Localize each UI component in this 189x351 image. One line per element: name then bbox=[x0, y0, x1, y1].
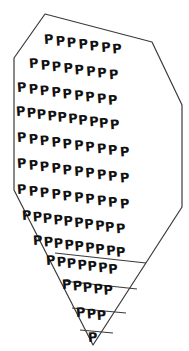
figure-canvas: PPPPPPPPPPPPPPPPPPPPPPPPPPPPPPPPPPPPPPPP… bbox=[0, 0, 189, 351]
polygon-boundary bbox=[14, 14, 182, 345]
polygon-outline-svg bbox=[0, 0, 189, 351]
